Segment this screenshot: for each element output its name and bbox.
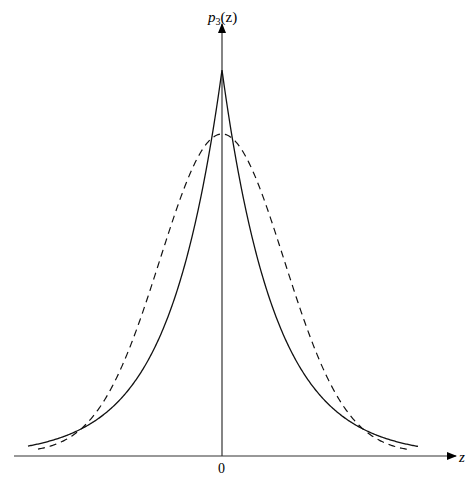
x-tick-zero: 0 [218, 461, 225, 476]
density-chart: z 0 p3(z) [0, 0, 469, 481]
x-axis-label: z [458, 449, 465, 465]
y-axis-label: p3(z) [207, 9, 237, 27]
dashed-density-curve [38, 134, 408, 449]
solid-density-curve [28, 70, 418, 446]
